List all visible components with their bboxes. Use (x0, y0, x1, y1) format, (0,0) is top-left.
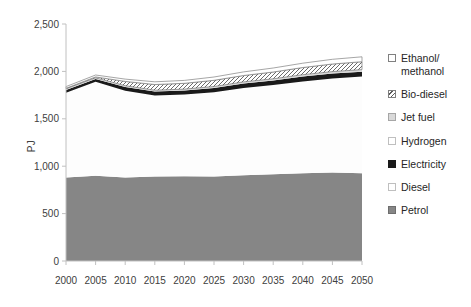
x-tick-label: 2020 (173, 275, 196, 286)
x-tick-label: 2005 (84, 275, 107, 286)
legend-item-bio-diesel[interactable]: Bio-diesel (388, 88, 468, 101)
legend-label: Bio-diesel (401, 88, 447, 101)
legend-swatch-ethanol-methanol-icon (388, 54, 396, 62)
y-tick-label: 1,000 (34, 161, 59, 172)
legend-swatch-electricity-icon (388, 160, 396, 168)
series-area-petrol[interactable]: Petrol (66, 172, 362, 261)
legend-swatch-bio-diesel-icon (388, 90, 396, 98)
legend-label: Ethanol/​methanol (401, 52, 468, 78)
legend-swatch-petrol-icon (388, 206, 396, 214)
legend-item-jet-fuel[interactable]: Jet fuel (388, 111, 468, 124)
legend-item-petrol[interactable]: Petrol (388, 204, 468, 217)
x-tick-label: 2010 (114, 275, 137, 286)
legend-item-ethanol-methanol[interactable]: Ethanol/​methanol (388, 52, 468, 78)
legend-label: Electricity (401, 158, 446, 171)
chart-canvas: PetrolDieselElectricityHydrogenJet fuelB… (0, 0, 471, 307)
x-tick-label: 2045 (321, 275, 344, 286)
legend-swatch-diesel-icon (388, 183, 396, 191)
legend-label: Diesel (401, 181, 430, 194)
x-tick-label: 2035 (262, 275, 285, 286)
x-tick-label: 2025 (203, 275, 226, 286)
x-tick-label: 2015 (144, 275, 167, 286)
chart-legend: Ethanol/​methanolBio-dieselJet fuelHydro… (388, 52, 468, 217)
legend-swatch-hydrogen-icon (388, 137, 396, 145)
legend-label: Petrol (401, 204, 428, 217)
y-axis-title: PJ (26, 140, 37, 152)
legend-label: Jet fuel (401, 111, 435, 124)
x-tick-label: 2030 (232, 275, 255, 286)
x-tick-label: 2050 (351, 275, 374, 286)
legend-item-hydrogen[interactable]: Hydrogen (388, 135, 468, 148)
legend-item-diesel[interactable]: Diesel (388, 181, 468, 194)
y-tick-label: 1,500 (34, 113, 59, 124)
x-tick-label: 2040 (292, 275, 315, 286)
y-tick-label: 2,500 (34, 19, 59, 30)
y-tick-label: 0 (53, 256, 59, 267)
x-tick-label: 2000 (55, 275, 78, 286)
legend-item-electricity[interactable]: Electricity (388, 158, 468, 171)
y-tick-label: 2,000 (34, 66, 59, 77)
y-tick-label: 500 (42, 208, 59, 219)
legend-swatch-jet-fuel-icon (388, 113, 396, 121)
legend-label: Hydrogen (401, 135, 447, 148)
